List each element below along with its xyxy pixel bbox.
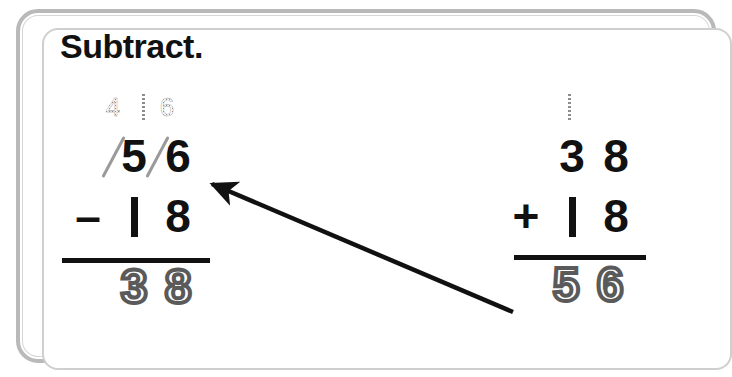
addend-top-ones-digit: 8 xyxy=(596,128,636,184)
addition-check-problem: 1 3 8 + 1 8 5 6 xyxy=(500,92,660,312)
minuend-row: 5 6 xyxy=(62,128,212,184)
addend-bottom-tens-digit-one xyxy=(569,197,576,237)
addition-answer-row: 5 6 xyxy=(500,256,650,312)
regroup-tens-mark: 4 xyxy=(96,92,130,122)
plus-operator: + xyxy=(506,188,546,244)
instruction-text: Subtract. xyxy=(60,27,203,66)
minus-operator: – xyxy=(68,188,108,244)
carry-row: 1 xyxy=(500,92,650,126)
subtraction-answer-row: 3 8 xyxy=(62,258,212,314)
answer-ones-digit: 8 xyxy=(156,258,200,316)
regroup-ones-carry-mark xyxy=(142,94,145,120)
addend-top-row: 3 8 xyxy=(500,128,650,184)
addend-bottom-ones-digit: 8 xyxy=(596,188,636,244)
subtrahend-ones-digit: 8 xyxy=(158,188,198,244)
regroup-row: 4 6 xyxy=(62,92,212,126)
subtrahend-row: – 1 8 xyxy=(62,188,212,244)
answer-tens-digit: 3 xyxy=(112,258,156,316)
minuend-ones-digit: 6 xyxy=(158,128,198,184)
subtrahend-tens-digit-one xyxy=(131,197,138,237)
check-answer-ones-digit: 6 xyxy=(588,256,632,314)
addend-top-tens-digit: 3 xyxy=(552,128,592,184)
carry-tens-mark xyxy=(568,94,571,120)
regroup-ones-mark: 6 xyxy=(150,92,184,122)
subtraction-problem: 4 6 5 6 – 1 8 3 8 xyxy=(62,92,222,314)
addend-bottom-row: + 1 8 xyxy=(500,188,650,244)
check-answer-tens-digit: 5 xyxy=(544,256,588,314)
